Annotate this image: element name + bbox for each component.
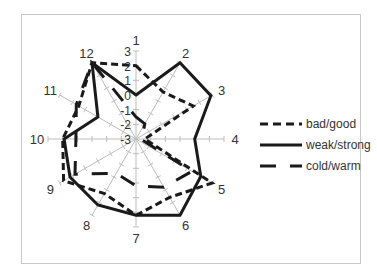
r-tick-label: -2 xyxy=(120,118,131,132)
axis-category-label: 1 xyxy=(132,33,139,48)
axis-category-label: 12 xyxy=(79,46,93,61)
legend-item-weak-strong: weak/strong xyxy=(258,134,371,155)
r-tick-label: 0 xyxy=(124,89,131,103)
axis-category-label: 2 xyxy=(182,46,189,61)
legend-label: bad/good xyxy=(306,117,356,131)
axis-category-label: 8 xyxy=(83,218,90,233)
axis-category-label: 5 xyxy=(218,182,225,197)
legend-item-cold-warm: cold/warm xyxy=(258,155,371,176)
r-tick-label: -1 xyxy=(120,104,131,118)
solid-line-icon xyxy=(258,141,302,149)
axis-category-label: 3 xyxy=(218,83,225,98)
r-tick-label: 1 xyxy=(124,74,131,88)
r-tick-label: 2 xyxy=(124,60,131,74)
axis-category-label: 10 xyxy=(30,132,44,147)
axis-category-label: 4 xyxy=(231,132,238,147)
r-tick-label: -3 xyxy=(120,133,131,147)
axis-category-label: 9 xyxy=(47,182,54,197)
long-dash-line-icon xyxy=(258,162,302,170)
legend-label: cold/warm xyxy=(306,159,361,173)
dashed-line-icon xyxy=(258,120,302,128)
legend-label: weak/strong xyxy=(306,138,371,152)
axis-category-label: 11 xyxy=(44,83,58,98)
r-tick-label: 3 xyxy=(124,45,131,59)
axis-category-label: 6 xyxy=(182,218,189,233)
legend-item-bad-good: bad/good xyxy=(258,113,371,134)
axis-category-label: 7 xyxy=(132,231,139,246)
legend: bad/good weak/strong cold/warm xyxy=(258,113,371,176)
